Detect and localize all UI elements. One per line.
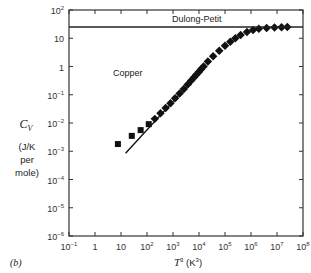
y-axis-label-symbol: CV bbox=[20, 117, 34, 133]
annotation-copper: Copper bbox=[113, 68, 143, 78]
data-point bbox=[115, 141, 121, 147]
chart: 10−111010210310410510610710810−610−510−4… bbox=[0, 0, 311, 273]
y-tick-label: 10−5 bbox=[47, 203, 65, 214]
x-tick-label: 108 bbox=[296, 241, 310, 252]
x-tick-label: 1 bbox=[92, 242, 97, 252]
panel-label: (b) bbox=[10, 257, 22, 269]
data-point bbox=[156, 109, 164, 117]
data-point bbox=[138, 127, 144, 133]
x-tick-label: 104 bbox=[192, 241, 206, 252]
annotation-dulong-petit: Dulong-Petit bbox=[172, 14, 222, 24]
x-tick-label: 105 bbox=[218, 241, 232, 252]
y-tick-label: 10−2 bbox=[47, 118, 65, 129]
y-tick-label: 102 bbox=[51, 5, 65, 16]
plot-frame bbox=[69, 10, 303, 236]
y-tick-label: 10−1 bbox=[47, 90, 65, 101]
data-point bbox=[255, 25, 263, 33]
data-point bbox=[129, 133, 135, 139]
data-point bbox=[262, 24, 270, 32]
x-tick-label: 103 bbox=[166, 241, 180, 252]
data-point bbox=[209, 52, 217, 60]
y-tick-label: 10 bbox=[54, 34, 64, 44]
debye-t3-line bbox=[126, 79, 194, 153]
x-tick-label: 10−1 bbox=[61, 241, 79, 252]
y-tick-label: 10−6 bbox=[47, 231, 65, 242]
x-tick-label: 107 bbox=[270, 241, 284, 252]
data-point bbox=[215, 47, 223, 55]
x-axis-label: T3 (K3) bbox=[174, 256, 202, 268]
y-axis-label-units: mole) bbox=[15, 167, 39, 178]
x-tick-label: 102 bbox=[140, 241, 154, 252]
y-axis-label-units: (J/K bbox=[19, 141, 37, 152]
y-tick-label: 10−4 bbox=[47, 175, 65, 186]
y-axis-label-units: per bbox=[20, 154, 34, 165]
y-tick-label: 1 bbox=[59, 63, 64, 73]
y-tick-label: 10−3 bbox=[47, 146, 65, 157]
x-tick-label: 106 bbox=[244, 241, 258, 252]
x-tick-label: 10 bbox=[116, 242, 126, 252]
